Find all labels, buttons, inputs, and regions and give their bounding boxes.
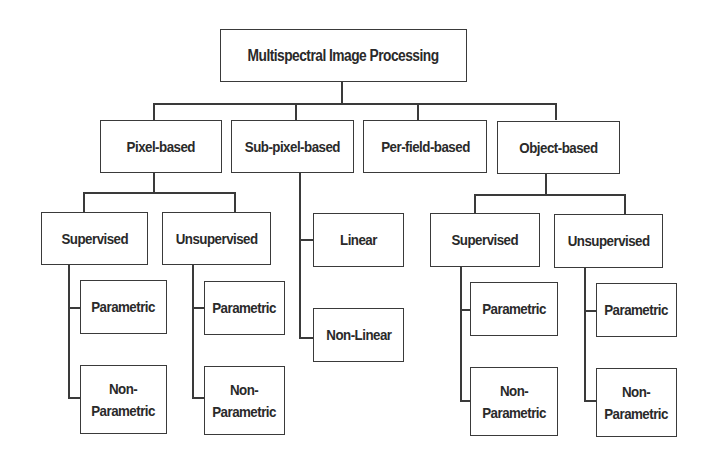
node-label: Linear	[340, 229, 377, 251]
classification-tree-diagram: Multispectral Image Processing Pixel-bas…	[0, 0, 713, 464]
connector	[299, 173, 301, 338]
connector	[83, 192, 235, 194]
node-object-supervised-parametric: Parametric	[470, 282, 558, 336]
connector	[192, 307, 204, 309]
node-object-supervised: Supervised	[430, 213, 540, 267]
node-label: Unsupervised	[568, 230, 650, 252]
node-object-unsupervised: Unsupervised	[554, 214, 663, 268]
connector	[584, 267, 586, 401]
node-object-unsupervised-non-parametric: Non- Parametric	[596, 368, 677, 437]
connector	[474, 194, 476, 214]
node-label: Sub-pixel-based	[245, 136, 340, 158]
connector	[83, 192, 85, 212]
node-label: Non-Linear	[326, 324, 391, 346]
node-pixel-unsupervised-parametric: Parametric	[204, 281, 285, 335]
connector	[474, 194, 625, 196]
node-object-based: Object-based	[497, 121, 620, 174]
node-pixel-unsupervised: Unsupervised	[162, 212, 271, 265]
connector	[192, 397, 204, 399]
node-label: Per-field-based	[381, 136, 470, 158]
connector	[584, 310, 596, 312]
node-label: Parametric	[605, 299, 669, 321]
connector	[299, 337, 313, 339]
connector	[555, 103, 557, 120]
node-sub-pixel-linear: Linear	[313, 213, 404, 267]
connector	[584, 400, 596, 402]
node-label: Pixel-based	[127, 136, 195, 158]
node-pixel-based: Pixel-based	[100, 120, 222, 173]
node-label: Non- Parametric	[482, 380, 546, 424]
connector	[234, 192, 236, 212]
node-sub-pixel-non-linear: Non-Linear	[313, 308, 404, 362]
node-pixel-supervised-parametric: Parametric	[80, 280, 167, 334]
node-label: Multispectral Image Processing	[248, 45, 439, 67]
node-pixel-unsupervised-non-parametric: Non- Parametric	[204, 366, 285, 435]
connector	[545, 173, 547, 194]
node-sub-pixel-based: Sub-pixel-based	[231, 120, 354, 173]
connector	[417, 103, 419, 120]
node-per-field-based: Per-field-based	[363, 120, 487, 173]
connector	[153, 103, 155, 120]
node-label: Object-based	[519, 137, 597, 159]
node-object-unsupervised-parametric: Parametric	[596, 283, 677, 337]
node-label: Non- Parametric	[605, 381, 669, 425]
node-label: Parametric	[213, 297, 277, 319]
node-label: Supervised	[61, 228, 128, 250]
node-multispectral-image-processing: Multispectral Image Processing	[220, 29, 467, 82]
node-pixel-supervised: Supervised	[41, 212, 148, 265]
connector	[295, 103, 297, 120]
connector	[68, 265, 70, 398]
connector	[299, 239, 313, 241]
node-object-supervised-non-parametric: Non- Parametric	[470, 367, 558, 436]
connector	[153, 173, 155, 192]
node-label: Non- Parametric	[92, 378, 156, 422]
node-label: Supervised	[452, 229, 519, 251]
connector	[460, 309, 470, 311]
connector	[341, 82, 343, 103]
connector	[192, 265, 194, 398]
connector	[153, 103, 556, 105]
connector	[460, 267, 462, 401]
node-label: Parametric	[92, 296, 156, 318]
node-pixel-supervised-non-parametric: Non- Parametric	[80, 365, 167, 434]
connector	[460, 400, 470, 402]
node-label: Unsupervised	[176, 228, 258, 250]
connector	[68, 307, 80, 309]
connector	[68, 397, 80, 399]
node-label: Non- Parametric	[213, 379, 277, 423]
connector	[624, 194, 626, 214]
node-label: Parametric	[482, 298, 546, 320]
